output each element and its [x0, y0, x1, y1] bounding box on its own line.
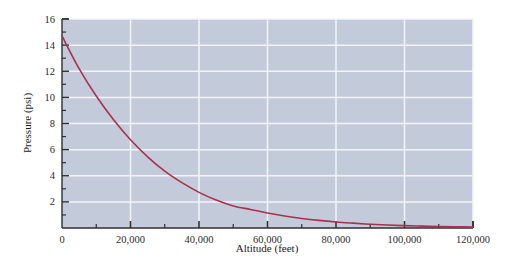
x-tick-label: 0: [59, 234, 64, 245]
y-tick-label: 2: [50, 196, 55, 207]
y-tick-label: 14: [45, 40, 56, 51]
x-tick-label: 100,000: [387, 234, 421, 245]
y-tick-label: 8: [50, 118, 55, 129]
chart-svg: 246810121416 020,00040,00060,00080,00010…: [0, 0, 517, 272]
x-tick-label: 120,000: [456, 234, 490, 245]
x-tick-label: 80,000: [322, 234, 351, 245]
x-tick-label: 40,000: [185, 234, 214, 245]
x-tick-label: 20,000: [116, 234, 145, 245]
y-tick-label: 16: [45, 14, 56, 25]
y-tick-label: 6: [50, 144, 55, 155]
y-axis-title: Pressure (psi): [21, 93, 34, 154]
y-tick-label: 4: [50, 170, 56, 181]
pressure-altitude-chart: 246810121416 020,00040,00060,00080,00010…: [0, 0, 517, 272]
x-axis-title: Altitude (feet): [236, 242, 299, 255]
y-tick-label: 10: [45, 92, 56, 103]
y-tick-label: 12: [45, 66, 56, 77]
